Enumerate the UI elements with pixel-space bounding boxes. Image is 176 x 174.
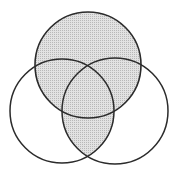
- venn-diagram: [0, 0, 176, 174]
